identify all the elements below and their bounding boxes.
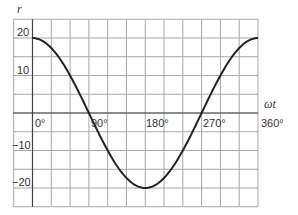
chart: r ωt 20 10 −10 −20 0° 90° 180° 270° 360° xyxy=(0,0,298,215)
x-tick-180: 180° xyxy=(146,117,169,129)
x-tick-360: 360° xyxy=(261,117,284,129)
x-tick-270: 270° xyxy=(203,117,226,129)
y-tick-minus-10: −10 xyxy=(12,139,31,151)
y-tick-20: 20 xyxy=(17,26,29,38)
x-tick-0: 0° xyxy=(35,117,46,129)
y-axis-label: r xyxy=(17,2,22,16)
x-tick-90: 90° xyxy=(91,117,108,129)
y-tick-10: 10 xyxy=(17,64,29,76)
y-tick-minus-20: −20 xyxy=(12,176,31,188)
x-axis-label: ωt xyxy=(264,97,276,111)
